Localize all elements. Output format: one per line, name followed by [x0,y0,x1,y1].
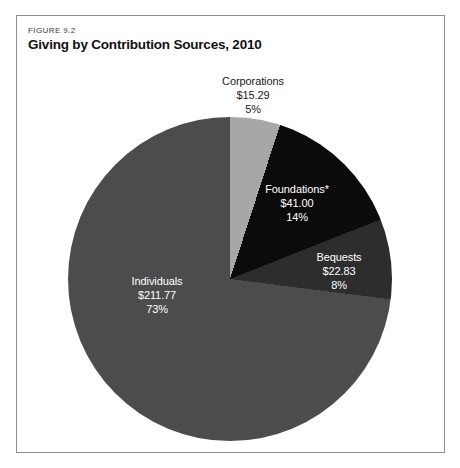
slice-percent: 5% [193,102,313,116]
slice-label-corporations: Corporations $15.29 5% [193,74,313,116]
slice-percent: 8% [279,278,399,292]
slice-label-bequests: Bequests $22.83 8% [279,250,399,292]
figure-title: Giving by Contribution Sources, 2010 [28,37,262,52]
slice-amount: $22.83 [279,264,399,278]
figure-number: FIGURE 9.2 [28,26,76,35]
slice-percent: 73% [97,302,217,316]
slice-label-individuals: Individuals $211.77 73% [97,274,217,316]
slice-name: Corporations [193,74,313,88]
slice-amount: $15.29 [193,88,313,102]
slice-name: Individuals [97,274,217,288]
slice-label-foundations: Foundations* $41.00 14% [237,182,357,224]
slice-amount: $211.77 [97,288,217,302]
slice-amount: $41.00 [237,196,357,210]
slice-name: Bequests [279,250,399,264]
figure-9-2: FIGURE 9.2 Giving by Contribution Source… [0,0,460,468]
slice-percent: 14% [237,210,357,224]
slice-name: Foundations* [237,182,357,196]
